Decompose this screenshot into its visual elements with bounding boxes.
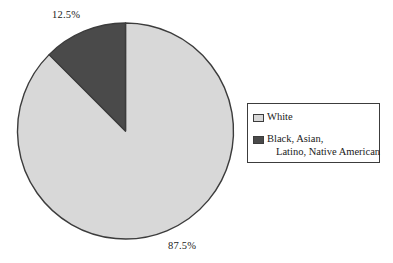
legend-label-white-line1: White — [267, 111, 293, 122]
chart-legend: White Black, Asian, Latino, Native Ameri… — [247, 103, 380, 163]
legend-label-minority-line1: Black, Asian, — [267, 133, 323, 144]
data-label-minority: 12.5% — [52, 9, 80, 20]
legend-swatch-white-icon — [253, 114, 264, 122]
data-label-white: 87.5% — [168, 240, 196, 251]
legend-label-minority-line2: Latino, Native American — [267, 146, 380, 157]
legend-item-white[interactable]: White — [253, 111, 293, 124]
pie-chart-figure: 12.5% 87.5% White Black, Asian, Latino, … — [0, 0, 393, 263]
legend-item-minority[interactable]: Black, Asian, Latino, Native American — [253, 133, 380, 158]
legend-swatch-minority-icon — [253, 136, 264, 144]
